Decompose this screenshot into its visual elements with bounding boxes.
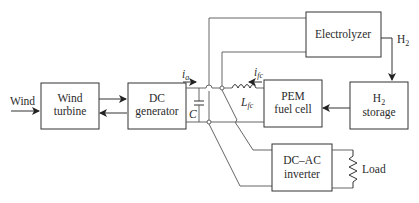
h2-flow-label: H2 [397,33,409,48]
wind-turbine-line2: turbine [54,105,87,117]
wire-crossover [206,85,212,88]
electrolyzer-label: Electrolyzer [315,28,371,41]
dc-generator-line1: DC [149,92,165,104]
current-ia-label: ia [182,68,189,82]
dc-generator-line2: generator [135,105,179,118]
inductor-label: Lfc [240,96,254,110]
pem-fuel-cell-block: PEM fuel cell [264,80,322,127]
resistor-icon [349,150,357,188]
h2-storage-block: H2 storage [350,82,408,129]
load-label: Load [362,163,386,175]
junction-top [220,86,224,90]
load-resistor: Load [332,150,386,188]
capacitor: C [189,88,204,122]
junction-bottom [207,120,211,124]
inverter-line1: DC–AC [283,154,321,166]
system-diagram: Wind Wind turbine DC generator ia C [0,0,419,203]
current-ifc: ifc [249,66,263,82]
pem-line1: PEM [281,90,305,102]
current-ia: ia [182,68,196,82]
current-ifc-label: ifc [254,66,263,80]
wind-input: Wind [10,95,39,111]
wind-input-label: Wind [10,95,35,107]
dc-generator-block: DC generator [128,83,186,129]
dc-ac-inverter-block: DC–AC inverter [272,144,332,191]
inverter-line2: inverter [284,168,320,180]
wind-turbine-block: Wind turbine [41,83,99,129]
wind-turbine-line1: Wind [57,92,82,104]
h2-storage-line2: storage [362,106,395,119]
capacitor-label: C [189,108,197,120]
electrolyzer-block: Electrolyzer [306,12,381,57]
h2-flow: H2 [381,33,409,80]
inverter-bottom-wire [209,124,272,186]
pem-line2: fuel cell [274,103,311,115]
